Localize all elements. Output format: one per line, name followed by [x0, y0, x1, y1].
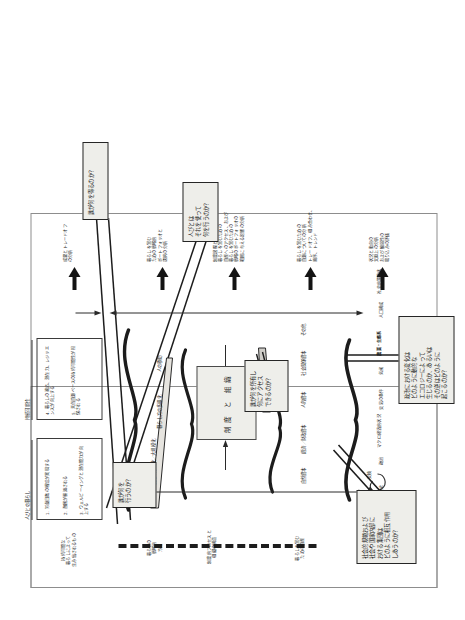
- outcome-item-3: 人の移動: [156, 346, 162, 382]
- callout-who-owns-accesses[interactable]: 誰が何を所有し 何にアクセス できるのか？: [244, 360, 288, 412]
- context-item-8: 社会的趨勢化: [376, 266, 381, 296]
- annotation-exchange: 交換: [366, 464, 371, 486]
- context-item-2: 政治: [378, 448, 383, 474]
- capital-item-3: 人的資本: [300, 382, 306, 418]
- annotation-livelihood-assets: 暮らしを営む ための資産: [294, 522, 305, 574]
- block-arrows-right: [68, 267, 388, 290]
- capital-item-1: 自然資本: [300, 458, 306, 494]
- callout-who-gets-what-text: 誰が何を得るのか？: [87, 147, 94, 215]
- callout-what-people-do-with-it[interactable]: 人びとは それを使って 何を行うのか？: [182, 182, 218, 242]
- context-item-5: 気候: [378, 360, 383, 382]
- annotation-right-1: 成果とトレードオフ の分析: [62, 208, 73, 262]
- context-item-4: 交易の条件: [378, 384, 383, 414]
- callout-who-owns-accesses-text: 誰が何を所有し 何にアクセス できるのか？: [249, 365, 271, 407]
- callout-social-norms-groups[interactable]: 社会的規範および 社会や国家内部に おける集団は どのように相互作用 しあうのか…: [356, 490, 416, 564]
- center-line-2: と: [223, 398, 231, 408]
- block-arrow-2: [156, 267, 168, 290]
- livelihood-item-2: 2. 貧困が軽減される: [62, 445, 67, 515]
- center-line-3: 組織: [223, 373, 231, 393]
- sustainability-item-5: 5. 天然資源ベースの持続可能性が担保される: [70, 343, 81, 415]
- annotation-right-2: 暮らしを営む ための戦略的 ポートフォリオと 選択の分析: [146, 204, 167, 262]
- scanned-page: 人びとの暮らし 1. 労働日数の増加が実現する 2. 貧困が軽減される 3. ウ…: [0, 0, 465, 620]
- arrow-right-spine: [109, 310, 363, 315]
- callout-who-gets-what[interactable]: 誰が何を得るのか？: [82, 142, 108, 220]
- brace-outcomes-lower: [182, 350, 193, 498]
- annotation-livelihood-strategies: 暮らしの 戦略的 方策: [146, 528, 162, 568]
- callout-social-norms-groups-text: 社会的規範および 社会や国家内部に おける集団は どのように相互作用 しあうのか…: [361, 495, 398, 559]
- callout-who-does-what[interactable]: 誰が何を 行うのか？: [112, 462, 156, 508]
- outcome-item-2: 暮らし方の多様化: [156, 390, 162, 434]
- callout-what-people-do-with-it-text: 人びとは それを使って 何を行うのか？: [187, 187, 209, 237]
- capital-item-4: 社会関係資本: [300, 342, 306, 384]
- annotation-right-4: 暮らしを営むための 資源についての分析 トレードオフ、組み合わせ、 順序、トレン…: [296, 198, 317, 262]
- center-line-1: 制度: [223, 413, 231, 433]
- livelihood-item-3: 3. ウェルビーイングと潜在能力が向上する: [78, 445, 89, 515]
- context-item-7: 人口構成: [378, 296, 383, 324]
- context-item-6: 農業・生態系: [376, 324, 381, 362]
- annotation-right-5: 状況と動向の 文脈上の分析 および脆弱性の 取り込みの評価: [368, 206, 389, 262]
- sustainability-panel-heading: 持続可能性: [24, 340, 32, 420]
- capital-item-5: その他: [300, 316, 306, 344]
- callout-politics-ecology-change[interactable]: 政治における変化は どのように動的な エコロジーによって 生じるのか、あるいは …: [398, 316, 454, 404]
- callout-politics-ecology-change-text: 政治における変化は どのように動的な エコロジーによって 生じるのか、あるいは …: [403, 321, 447, 399]
- arrow-sustainability-down: [75, 310, 101, 315]
- sustainability-item-4: 4. 暮らしの適応、潜在力、レジリエンスが向上する: [44, 343, 55, 415]
- center-box-labels: 制度 と 組織: [221, 373, 231, 433]
- callout-who-does-what-text: 誰が何を 行うのか？: [117, 467, 132, 503]
- livelihoods-framework-diagram: 人びとの暮らし 1. 労働日数の増加が実現する 2. 貧困が軽減される 3. ウ…: [0, 0, 465, 620]
- capital-item-2: 経済／財政資本: [300, 418, 306, 460]
- livelihood-panel-heading: 人びとの暮らし: [24, 440, 32, 520]
- block-arrow-4: [304, 267, 316, 290]
- diagram-canvas: 人びとの暮らし 1. 労働日数の増加が実現する 2. 貧困が軽減される 3. ウ…: [0, 0, 465, 620]
- arrow-into-center-left: [222, 440, 227, 470]
- annotation-institutional-process: 制度的プロセスと 組織の構造: [206, 518, 217, 576]
- block-arrow-1: [68, 267, 80, 290]
- annotation-sustainable-outcomes: 持続可能な 暮らしによって 生み出されるもの: [60, 522, 76, 578]
- brace-context-upper: [345, 340, 356, 500]
- context-item-3: マクロ経済的状況: [376, 414, 381, 448]
- block-arrow-3: [228, 267, 240, 290]
- livelihood-item-1: 1. 労働日数の増加が実現する: [44, 445, 49, 515]
